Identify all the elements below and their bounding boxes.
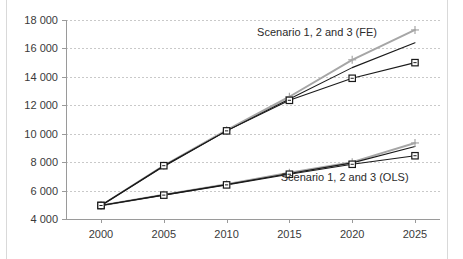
y-tick-label: 16 000 xyxy=(24,42,58,54)
plot-area: 4 0006 0008 00010 00012 00014 00016 0001… xyxy=(0,0,463,259)
y-tick-label: 8 000 xyxy=(30,156,58,168)
x-tick-label: 2005 xyxy=(152,228,176,240)
x-tick-label: 2010 xyxy=(214,228,238,240)
y-tick-label: 6 000 xyxy=(30,185,58,197)
axes-group xyxy=(66,20,440,220)
y-tick-labels-group: 4 0006 0008 00010 00012 00014 00016 0001… xyxy=(24,14,58,225)
x-tick-label: 2015 xyxy=(277,228,301,240)
y-tickmarks-group xyxy=(62,21,66,220)
y-tick-label: 12 000 xyxy=(24,99,58,111)
line-chart: 4 0006 0008 00010 00012 00014 00016 0001… xyxy=(0,0,463,259)
gridlines-group xyxy=(66,21,440,192)
chart-figure: 4 0006 0008 00010 00012 00014 00016 0001… xyxy=(0,0,463,259)
series-annotation-label: Scenario 1, 2 and 3 (OLS) xyxy=(281,171,409,183)
y-tick-label: 18 000 xyxy=(24,14,58,26)
y-tick-label: 10 000 xyxy=(24,128,58,140)
x-tick-label: 2000 xyxy=(89,228,113,240)
x-tick-label: 2020 xyxy=(340,228,364,240)
x-tick-labels-group: 200020052010201520202025 xyxy=(89,228,427,240)
x-tick-label: 2025 xyxy=(403,228,427,240)
series-annotation-label: Scenario 1, 2 and 3 (FE) xyxy=(257,26,377,38)
y-tick-label: 14 000 xyxy=(24,71,58,83)
y-tick-label: 4 000 xyxy=(30,213,58,225)
